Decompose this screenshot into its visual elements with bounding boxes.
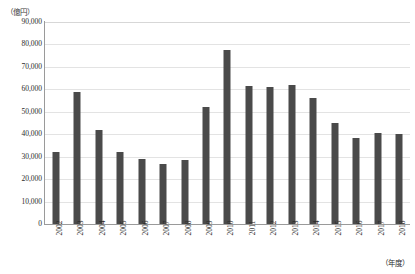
x-axis-tick-slot: 2017	[367, 226, 388, 260]
y-axis-tick-label: 10,000	[0, 198, 42, 206]
x-axis-tick-slot: 2016	[346, 226, 367, 260]
bar	[160, 164, 167, 224]
bar	[117, 152, 124, 224]
bar-slot	[152, 22, 173, 224]
bar	[396, 134, 403, 224]
bar	[95, 130, 102, 224]
x-axis-tick-label: 2016	[356, 221, 364, 236]
x-axis-tick-slot: 2018	[389, 226, 410, 260]
x-axis-tick-label: 2017	[378, 221, 386, 236]
x-axis-tick-label: 2009	[206, 221, 214, 236]
y-axis-tick-label: 70,000	[0, 63, 42, 71]
bar-slot	[88, 22, 109, 224]
y-axis-tick-labels: 90,00080,00070,00060,00050,00040,00030,0…	[0, 0, 42, 274]
bar-slot	[260, 22, 281, 224]
bar	[310, 98, 317, 224]
bar-slot	[45, 22, 66, 224]
y-axis-tick-label: 20,000	[0, 175, 42, 183]
x-axis-tick-label: 2002	[56, 221, 64, 236]
bar-slot	[303, 22, 324, 224]
x-axis-tick-label: 2011	[249, 221, 257, 236]
bar	[52, 152, 59, 224]
y-axis-tick-label: 90,000	[0, 18, 42, 26]
bar-slot	[324, 22, 345, 224]
x-axis-tick-slot: 2004	[88, 226, 109, 260]
bar	[181, 160, 188, 224]
x-axis-tick-label: 2003	[77, 221, 85, 236]
bar-slot	[238, 22, 259, 224]
bar-chart-figure: （億円） 90,00080,00070,00060,00050,00040,00…	[0, 0, 415, 274]
plot-area	[45, 22, 410, 224]
bar	[245, 86, 252, 224]
bar	[374, 133, 381, 224]
bar-slot	[281, 22, 302, 224]
y-axis-tick-label: 50,000	[0, 108, 42, 116]
x-axis-tick-label: 2006	[142, 221, 150, 236]
x-axis-tick-label: 2008	[185, 221, 193, 236]
x-axis-tick-slot: 2014	[303, 226, 324, 260]
y-axis-tick-label: 0	[0, 220, 42, 228]
x-axis-tick-label: 2005	[120, 221, 128, 236]
bar-slot	[217, 22, 238, 224]
bar	[353, 138, 360, 224]
bar	[267, 87, 274, 224]
bar-slot	[367, 22, 388, 224]
x-axis-tick-slot: 2005	[109, 226, 130, 260]
x-axis-tick-label: 2015	[335, 221, 343, 236]
bar	[203, 107, 210, 224]
bar-slot	[131, 22, 152, 224]
x-axis-tick-label: 2012	[270, 221, 278, 236]
y-axis-line	[44, 21, 45, 225]
x-axis-tick-slot: 2003	[66, 226, 87, 260]
x-axis-tick-slot: 2012	[260, 226, 281, 260]
x-axis-tick-slot: 2006	[131, 226, 152, 260]
bar-slot	[195, 22, 216, 224]
x-axis-tick-slot: 2008	[174, 226, 195, 260]
x-axis-tick-labels: 2002200320042005200620072008200920102011…	[45, 226, 410, 260]
x-axis-tick-slot: 2009	[195, 226, 216, 260]
x-axis-tick-label: 2013	[292, 221, 300, 236]
bar-slot	[174, 22, 195, 224]
x-axis-tick-slot: 2015	[324, 226, 345, 260]
bar	[224, 50, 231, 224]
x-axis-tick-slot: 2010	[217, 226, 238, 260]
y-axis-tick-label: 40,000	[0, 130, 42, 138]
x-axis-unit-label: （年度）	[381, 259, 409, 268]
x-axis-tick-label: 2004	[99, 221, 107, 236]
bar	[288, 85, 295, 224]
bar-slot	[66, 22, 87, 224]
x-axis-tick-slot: 2007	[152, 226, 173, 260]
bar	[331, 123, 338, 224]
x-axis-tick-slot: 2011	[238, 226, 259, 260]
x-axis-tick-label: 2014	[313, 221, 321, 236]
x-axis-tick-slot: 2013	[281, 226, 302, 260]
x-axis-tick-label: 2018	[399, 221, 407, 236]
bar	[74, 92, 81, 224]
bar-slot	[109, 22, 130, 224]
y-axis-tick-label: 80,000	[0, 40, 42, 48]
x-axis-tick-label: 2010	[227, 221, 235, 236]
x-axis-tick-label: 2007	[163, 221, 171, 236]
y-axis-tick-label: 30,000	[0, 153, 42, 161]
bar-slot	[389, 22, 410, 224]
y-axis-tick-label: 60,000	[0, 85, 42, 93]
bar-slot	[346, 22, 367, 224]
bar	[138, 159, 145, 224]
x-axis-tick-slot: 2002	[45, 226, 66, 260]
